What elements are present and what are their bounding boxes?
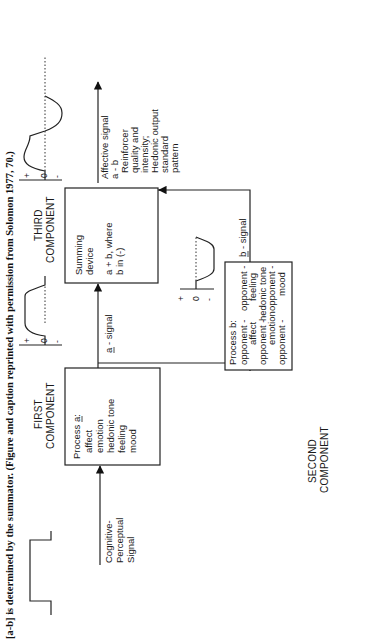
- summing-line-4: b in (-): [114, 248, 125, 275]
- summing-line-1: Summing: [73, 235, 84, 275]
- process-a-item: emotion: [94, 419, 105, 453]
- process-b-title: Process b:: [227, 320, 238, 365]
- opponent-process-diagram: [a-b] is determined by the summator. (Fi…: [0, 0, 375, 641]
- b-signal-label: b - signal: [237, 218, 248, 257]
- figure-caption: [a-b] is determined by the summator. (Fi…: [4, 151, 16, 639]
- b-process-waveform: + 0 -: [176, 237, 214, 301]
- input-pulse-icon: [30, 531, 51, 615]
- svg-text:0: 0: [39, 338, 49, 343]
- first-component-header-1: FIRST: [33, 399, 44, 429]
- process-b-item: mood: [276, 272, 287, 296]
- a-signal-label: a - signal: [103, 314, 114, 353]
- summing-line-2: device: [84, 248, 95, 275]
- third-component-header-2: COMPONENT: [45, 196, 56, 263]
- svg-text:-: -: [52, 340, 62, 343]
- first-component-header-2: COMPONENT: [45, 382, 56, 449]
- svg-text:-: -: [204, 298, 214, 301]
- svg-text:0: 0: [191, 296, 201, 301]
- summing-line-3: a + b, where: [103, 222, 114, 275]
- svg-text:+: +: [22, 173, 32, 178]
- second-component-header-2: COMPONENT: [319, 426, 330, 493]
- input-label-line-3: Signal: [125, 537, 136, 563]
- process-a-item: mood: [127, 429, 138, 453]
- svg-text:-: -: [52, 175, 62, 178]
- svg-text:+: +: [22, 338, 32, 343]
- process-a-item: hedonic tone: [105, 399, 116, 453]
- affective-output-waveform: + 0 -: [19, 56, 62, 180]
- process-b-item: feeling: [247, 273, 258, 301]
- input-label-line-2: Perceptual: [114, 518, 125, 563]
- process-a-title: Process a:: [71, 414, 82, 459]
- process-b-item: opponent -: [276, 320, 287, 365]
- a-process-waveform: + 0 -: [19, 276, 62, 345]
- rotated-figure: [a-b] is determined by the summator. (Fi…: [0, 0, 375, 641]
- process-a-item: feeling: [116, 425, 127, 453]
- third-component-header-1: THIRD: [33, 209, 44, 241]
- input-label-line-1: Cognitive-: [103, 520, 114, 563]
- output-label-8: pattern: [169, 143, 180, 173]
- second-component-header-1: SECOND: [307, 439, 318, 483]
- process-a-item: affect: [83, 430, 94, 453]
- svg-text:0: 0: [39, 173, 49, 178]
- svg-text:+: +: [176, 296, 186, 301]
